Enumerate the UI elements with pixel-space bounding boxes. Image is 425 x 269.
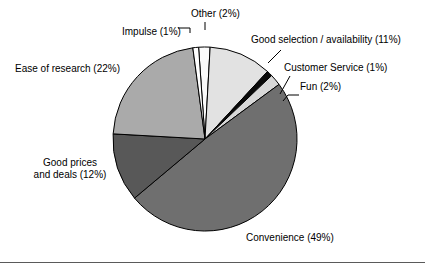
slice-label-good-prices-line2: and deals (12%) — [34, 169, 107, 180]
pie-chart-figure: Impulse (1%) Other (2%) Good selection /… — [0, 0, 425, 269]
slice-label-good-prices-line1: Good prices — [43, 157, 97, 168]
slice-label-good-prices: Good prices and deals (12%) — [24, 157, 116, 181]
slice-label-fun: Fun (2%) — [300, 81, 341, 93]
leader-line-customer-service — [280, 76, 290, 94]
slice-label-impulse: Impulse (1%) — [122, 26, 181, 38]
leader-line-good-selection — [268, 50, 281, 63]
slice-label-customer-service: Customer Service (1%) — [284, 62, 387, 74]
pie-slice[interactable] — [113, 48, 205, 139]
pie-slice-group — [113, 47, 297, 231]
footer-divider — [0, 262, 425, 263]
slice-label-convenience: Convenience (49%) — [246, 232, 334, 244]
slice-label-other: Other (2%) — [191, 8, 240, 20]
slice-label-good-selection: Good selection / availability (11%) — [251, 34, 401, 46]
slice-label-ease-of-research: Ease of research (22%) — [15, 63, 120, 75]
